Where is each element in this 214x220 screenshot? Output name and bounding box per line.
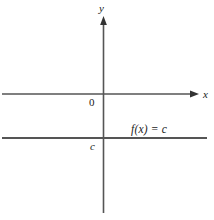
- x-axis-arrowhead: [190, 91, 199, 98]
- y-axis-label: y: [99, 3, 104, 14]
- constant-value-label: c: [90, 141, 95, 152]
- x-axis-label: x: [203, 89, 208, 100]
- origin-label: 0: [89, 97, 95, 108]
- plot-canvas: [0, 0, 214, 220]
- function-equation-label: f(x) = c: [131, 124, 167, 136]
- constant-function-figure: y x 0 c f(x) = c: [0, 0, 214, 220]
- y-axis-arrowhead: [100, 16, 107, 25]
